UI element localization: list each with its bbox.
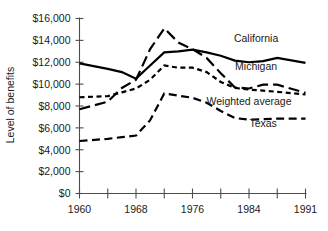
y-tick-label: $8,000 bbox=[38, 100, 70, 112]
chart-figure: $16,000 $14,000 $12,000 $10,000 $8,000 $… bbox=[0, 0, 328, 231]
series-label-california: California bbox=[234, 32, 279, 44]
y-tick-label: $6,000 bbox=[38, 122, 70, 134]
x-tick-label: 1968 bbox=[124, 203, 148, 215]
x-axis-tick-labels: 1960 1968 1976 1984 1991 bbox=[68, 203, 318, 215]
series-label-michigan: Michigan bbox=[235, 60, 277, 72]
x-tick-label: 1960 bbox=[68, 203, 92, 215]
x-tick-label: 1984 bbox=[237, 203, 261, 215]
y-tick-label: $10,000 bbox=[33, 78, 71, 90]
series-label-texas: Texas bbox=[249, 117, 276, 129]
y-tick-label: $0 bbox=[59, 187, 71, 199]
y-axis-title: Level of benefits bbox=[4, 67, 16, 143]
y-tick-label: $12,000 bbox=[33, 56, 71, 68]
y-tick-label: $16,000 bbox=[33, 12, 71, 24]
y-axis-tick-labels: $16,000 $14,000 $12,000 $10,000 $8,000 $… bbox=[33, 12, 71, 199]
y-tick-label: $2,000 bbox=[38, 165, 70, 177]
series-label-weighted-average: Weighted average bbox=[206, 95, 291, 107]
line-chart: $16,000 $14,000 $12,000 $10,000 $8,000 $… bbox=[0, 0, 328, 231]
y-tick-label: $4,000 bbox=[38, 144, 70, 156]
y-tick-label: $14,000 bbox=[33, 34, 71, 46]
x-tick-label: 1976 bbox=[181, 203, 205, 215]
x-tick-label: 1991 bbox=[294, 203, 318, 215]
